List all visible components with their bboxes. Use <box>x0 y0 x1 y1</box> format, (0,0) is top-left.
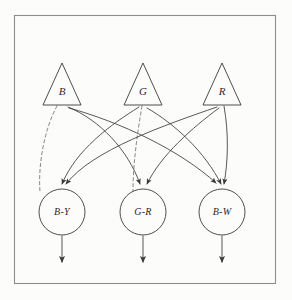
edge-g-to-bw <box>147 108 221 184</box>
channel-label: B-Y <box>54 206 71 217</box>
receptor-group: BGR <box>43 63 241 105</box>
receptor-g[interactable]: G <box>124 63 162 105</box>
channel-gr[interactable]: G-R <box>120 189 166 235</box>
channel-by[interactable]: B-Y <box>39 189 85 235</box>
receptor-label: B <box>59 85 66 97</box>
diagram-canvas: BGR B-YG-RB-W <box>0 0 292 300</box>
edge-b-to-gr <box>68 107 140 184</box>
edge-g-to-by <box>62 107 139 184</box>
channel-group: B-YG-RB-W <box>39 189 245 235</box>
receptor-r[interactable]: R <box>203 63 241 105</box>
receptor-b[interactable]: B <box>43 63 81 105</box>
output-arrow-group <box>62 236 222 262</box>
channel-label: B-W <box>213 206 233 217</box>
figure-border <box>15 16 276 284</box>
edge-r-to-bw <box>224 106 227 184</box>
connection-edges <box>40 106 228 192</box>
channel-label: G-R <box>134 206 152 217</box>
opponent-process-diagram: BGR B-YG-RB-W <box>0 0 292 300</box>
receptor-label: R <box>218 85 226 97</box>
channel-bw[interactable]: B-W <box>199 189 245 235</box>
edge-b-to-by <box>40 106 57 192</box>
receptor-label: G <box>139 85 147 97</box>
